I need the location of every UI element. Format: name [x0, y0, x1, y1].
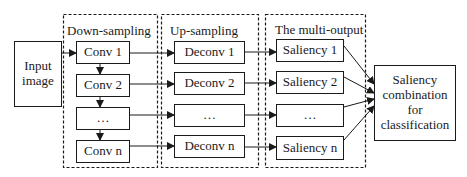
- combination-line-2: combination: [383, 88, 448, 103]
- multi-output-title: The multi-output: [275, 23, 363, 36]
- saliency-combination-box: Saliency combination for classification: [374, 65, 456, 141]
- deconv-ellipsis-box: …: [174, 104, 245, 127]
- saliency-n-box: Saliency n: [276, 136, 344, 160]
- conv-2-box: Conv 2: [76, 74, 130, 97]
- arrow-saliency1-to-combination: [344, 46, 374, 84]
- combination-line-4: classification: [381, 118, 450, 133]
- saliency-2-box: Saliency 2: [276, 71, 344, 94]
- down-sampling-title: Down-sampling: [67, 24, 151, 37]
- input-label-line-1: Input: [24, 59, 51, 74]
- arrow-saliency2-to-combination: [344, 77, 374, 93]
- combination-line-1: Saliency: [393, 73, 438, 88]
- input-image-box: Input image: [14, 41, 62, 107]
- conv-ellipsis-box: …: [76, 107, 130, 130]
- up-sampling-title: Up-sampling: [170, 24, 238, 37]
- saliency-1-box: Saliency 1: [276, 39, 344, 62]
- conv-n-box: Conv n: [76, 140, 130, 163]
- conv-1-box: Conv 1: [76, 41, 130, 64]
- combination-line-3: for: [407, 103, 422, 118]
- architecture-diagram: Input image Down-sampling Up-sampling Th…: [0, 0, 467, 177]
- input-label-line-2: image: [22, 74, 54, 89]
- arrow-saliency-dots-to-combination: [344, 99, 374, 107]
- arrow-saliencyn-to-combination: [344, 106, 374, 140]
- deconv-n-box: Deconv n: [174, 135, 245, 158]
- deconv-1-box: Deconv 1: [174, 41, 245, 64]
- deconv-2-box: Deconv 2: [174, 72, 245, 95]
- saliency-ellipsis-box: …: [276, 104, 344, 127]
